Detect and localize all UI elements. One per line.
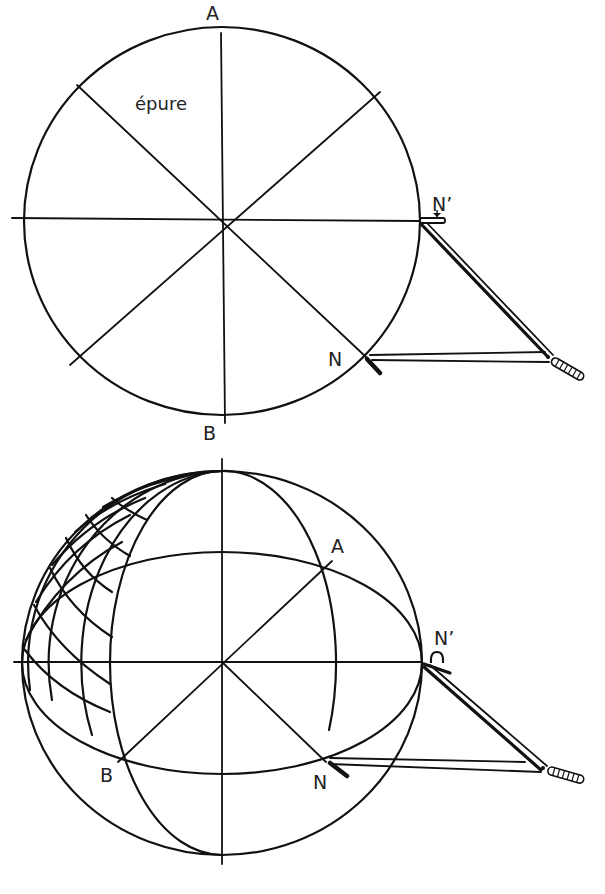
label-sphere-n-prime: N’ — [434, 627, 454, 649]
meridian-ab-right — [222, 471, 336, 730]
grid-crosslines — [25, 498, 147, 712]
sphere-figure: A B N’ N — [14, 459, 585, 864]
label-sphere-n: N — [313, 771, 327, 793]
horizontal-diameter — [12, 218, 420, 221]
label-n: N — [328, 348, 342, 370]
label-b: B — [203, 422, 216, 444]
label-epure: épure — [135, 93, 187, 114]
diagram-canvas: A B épure N’ N — [0, 0, 605, 894]
label-sphere-a: A — [331, 535, 344, 557]
diagonal-ne-sw — [70, 92, 380, 365]
label-n-prime: N’ — [432, 193, 452, 215]
label-sphere-b: B — [100, 764, 113, 786]
label-a: A — [206, 2, 219, 24]
sphere-compass-icon — [330, 652, 585, 784]
meridian-left-3 — [49, 471, 222, 700]
epure-figure: A B épure N’ N — [12, 2, 585, 444]
compass-icon — [367, 210, 585, 381]
meridian-ab-left — [110, 471, 222, 855]
diagonal-to-n — [222, 662, 326, 762]
